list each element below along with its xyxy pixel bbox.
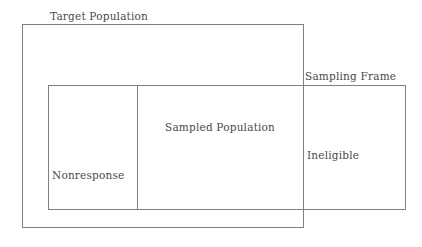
label-sampled-population: Sampled Population — [165, 121, 275, 133]
label-nonresponse: Nonresponse — [52, 169, 125, 181]
population-venn-diagram: Target Population Sampling Frame Nonresp… — [0, 0, 422, 247]
sampling-frame-rect — [49, 86, 406, 210]
label-target-population: Target Population — [50, 10, 148, 22]
label-ineligible: Ineligible — [307, 149, 359, 161]
label-sampling-frame: Sampling Frame — [305, 70, 396, 82]
